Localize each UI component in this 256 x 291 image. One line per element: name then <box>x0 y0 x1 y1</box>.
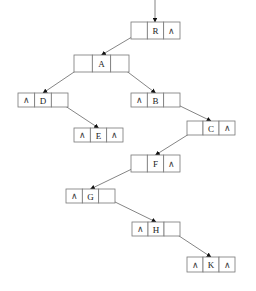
null-left-icon: ∧ <box>136 95 143 105</box>
null-right-icon: ∧ <box>168 26 175 36</box>
null-right-icon: ∧ <box>224 260 231 270</box>
left-cell <box>187 121 203 135</box>
node-label: E <box>96 131 102 141</box>
null-right-icon: ∧ <box>224 123 231 133</box>
node-label: A <box>98 59 105 69</box>
tree-node-e: E∧∧ <box>74 128 123 142</box>
null-left-icon: ∧ <box>137 224 144 234</box>
null-left-icon: ∧ <box>71 191 78 201</box>
left-cell <box>131 155 147 172</box>
right-cell <box>51 93 68 107</box>
tree-node-f: F∧ <box>131 155 180 172</box>
null-right-icon: ∧ <box>111 130 118 140</box>
right-cell <box>111 55 129 72</box>
node-label: R <box>152 26 158 36</box>
null-left-icon: ∧ <box>192 260 199 270</box>
tree-node-c: C∧ <box>187 121 235 135</box>
right-cell <box>164 93 180 107</box>
node-label: B <box>152 96 158 106</box>
node-label: G <box>87 192 94 202</box>
tree-node-k: K∧∧ <box>187 257 235 272</box>
node-label: D <box>40 96 47 106</box>
node-label: H <box>153 225 160 235</box>
tree-node-a: A <box>74 55 129 72</box>
nodes: R∧AD∧B∧E∧∧C∧F∧G∧H∧K∧∧ <box>18 22 235 272</box>
binary-tree-diagram: R∧AD∧B∧E∧∧C∧F∧G∧H∧K∧∧ <box>0 0 256 291</box>
tree-node-h: H∧ <box>132 222 180 236</box>
null-right-icon: ∧ <box>168 159 175 169</box>
left-cell <box>74 55 92 72</box>
tree-node-d: D∧ <box>18 93 68 107</box>
node-label: C <box>208 124 214 134</box>
node-label: F <box>153 159 158 169</box>
null-left-icon: ∧ <box>23 95 30 105</box>
null-left-icon: ∧ <box>79 130 86 140</box>
tree-node-g: G∧ <box>66 189 115 203</box>
right-cell <box>99 189 115 203</box>
tree-node-b: B∧ <box>131 93 180 107</box>
edges <box>43 0 211 257</box>
tree-node-r: R∧ <box>131 22 180 39</box>
right-cell <box>164 222 180 236</box>
node-label: K <box>208 260 215 270</box>
left-cell <box>131 22 147 39</box>
